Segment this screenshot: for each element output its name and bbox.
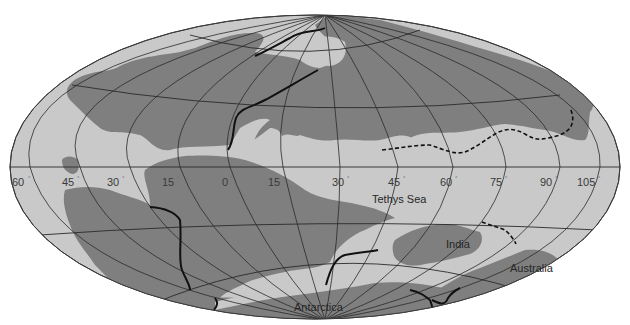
lon-label-15w: 15 — [162, 176, 174, 188]
label-india: India — [446, 238, 471, 250]
lon-label-45e: 45 — [388, 176, 400, 188]
lon-label-60w: 60 — [12, 176, 24, 188]
lon-label-30w: 30 — [107, 176, 119, 188]
lon-label-30e: 30 — [332, 176, 344, 188]
label-antarctica: Antarctica — [294, 301, 344, 313]
lon-label-0: 0 — [222, 176, 228, 188]
label-tethys-sea: Tethys Sea — [372, 193, 427, 205]
lon-label-15e: 15 — [268, 176, 280, 188]
paleogeographic-world-map: 60 ° 45 ° 30 ° 15 ° 0 ° 15 ° 30 ° 45 ° 6… — [0, 0, 630, 325]
lon-label-45w: 45 — [62, 176, 74, 188]
lon-label-90e: 90 — [540, 176, 552, 188]
lon-label-105e: 105 — [577, 176, 595, 188]
label-australia: Australia — [510, 262, 554, 274]
lon-label-60e: 60 — [440, 176, 452, 188]
lon-label-75e: 75 — [490, 176, 502, 188]
